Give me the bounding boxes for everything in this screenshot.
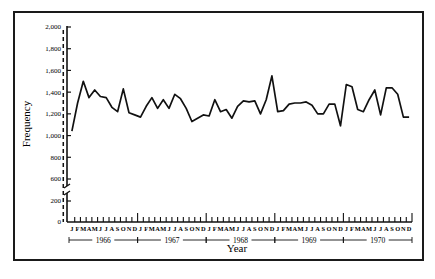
y-tick-label: 1,600 <box>45 67 61 75</box>
month-label: M <box>149 225 155 232</box>
month-label: M <box>286 225 292 232</box>
month-label: N <box>264 225 269 232</box>
y-tick-label: 1,200 <box>45 110 61 118</box>
month-label: A <box>178 225 183 232</box>
month-label: M <box>217 225 223 232</box>
month-label: M <box>298 225 304 232</box>
y-tick-label: 600 <box>51 175 62 183</box>
month-label: S <box>322 225 326 232</box>
month-label: J <box>236 225 240 232</box>
month-label: J <box>207 225 211 232</box>
month-label: O <box>189 225 194 232</box>
month-label: A <box>247 225 252 232</box>
month-label: J <box>167 225 171 232</box>
y-tick-label: 1,400 <box>45 89 61 97</box>
y-tick-label: 1,800 <box>45 45 61 53</box>
month-label: F <box>350 225 354 232</box>
month-label: F <box>281 225 285 232</box>
year-label: 1966 <box>96 236 111 245</box>
y-tick-label: 2,000 <box>45 23 61 31</box>
month-label: M <box>366 225 372 232</box>
month-label: A <box>315 225 320 232</box>
month-label: J <box>345 225 349 232</box>
y-axis-title: Frequency <box>20 100 32 147</box>
month-label: N <box>401 225 406 232</box>
month-label: M <box>92 225 98 232</box>
month-label: O <box>395 225 400 232</box>
month-label: S <box>184 225 188 232</box>
month-label: O <box>258 225 263 232</box>
month-label: J <box>276 225 280 232</box>
y-tick-label: 0 <box>58 218 62 226</box>
month-label: J <box>139 225 143 232</box>
data-series <box>72 76 409 131</box>
month-label: D <box>338 225 343 232</box>
month-label: M <box>160 225 166 232</box>
month-label: F <box>76 225 80 232</box>
month-label: N <box>127 225 132 232</box>
y-axis: 02006008001,0001,2001,4001,6001,8002,000 <box>45 23 71 226</box>
line-chart: 02006008001,0001,2001,4001,6001,8002,000… <box>0 0 435 279</box>
month-label: N <box>333 225 338 232</box>
month-label: O <box>121 225 126 232</box>
month-label: J <box>379 225 383 232</box>
month-label: D <box>132 225 137 232</box>
month-label: J <box>310 225 314 232</box>
month-label: S <box>253 225 257 232</box>
month-label: F <box>213 225 217 232</box>
year-label: 1967 <box>164 236 179 245</box>
month-label: J <box>105 225 109 232</box>
month-label: D <box>270 225 275 232</box>
month-label: F <box>144 225 148 232</box>
x-axis-title: Year <box>227 242 248 254</box>
month-label: S <box>116 225 120 232</box>
month-label: J <box>305 225 309 232</box>
month-label: M <box>229 225 235 232</box>
month-label: J <box>373 225 377 232</box>
month-label: D <box>201 225 206 232</box>
month-label: M <box>80 225 86 232</box>
x-axis: JFMAMJJASONDJFMAMJJASONDJFMAMJJASONDJFMA… <box>67 213 412 245</box>
month-label: S <box>390 225 394 232</box>
month-label: J <box>173 225 177 232</box>
series-line <box>72 76 409 131</box>
month-label: J <box>242 225 246 232</box>
y-tick-label: 200 <box>51 197 62 205</box>
month-label: A <box>384 225 389 232</box>
month-label: J <box>99 225 103 232</box>
month-label: O <box>327 225 332 232</box>
month-label: D <box>407 225 412 232</box>
month-label: M <box>355 225 361 232</box>
y-tick-label: 1,000 <box>45 132 61 140</box>
month-label: J <box>70 225 74 232</box>
year-label: 1969 <box>302 236 317 245</box>
month-label: A <box>110 225 115 232</box>
y-tick-label: 800 <box>51 154 62 162</box>
month-label: N <box>195 225 200 232</box>
year-label: 1970 <box>370 236 385 245</box>
